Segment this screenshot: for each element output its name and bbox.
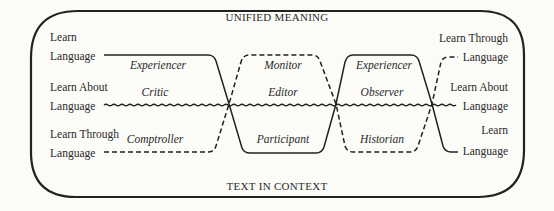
role-monitor: Monitor: [264, 59, 302, 71]
right-label-line2: Language: [463, 144, 508, 158]
left-label-line2: Language: [50, 49, 95, 63]
left-label-line2: Language: [50, 146, 119, 160]
right-label-line2: Language: [439, 50, 508, 64]
role-participant: Participant: [257, 133, 309, 145]
role-critic: Critic: [142, 86, 169, 98]
role-experiencer-1: Experiencer: [130, 59, 186, 71]
left-label-line1: Learn Through: [50, 127, 119, 141]
left-label-line1: Learn About: [50, 80, 108, 94]
right-label-learn-through-language: Learn Through Language: [439, 31, 508, 64]
left-label-line2: Language: [50, 99, 108, 113]
learn-about-language-line: [104, 104, 456, 106]
right-label-line1: Learn Through: [439, 31, 508, 45]
role-historian: Historian: [360, 133, 404, 145]
right-label-learn-about-language: Learn About Language: [450, 80, 508, 113]
role-comptroller: Comptroller: [127, 133, 183, 145]
role-experiencer-2: Experiencer: [356, 59, 412, 71]
role-editor: Editor: [268, 86, 297, 98]
left-label-learn-about-language: Learn About Language: [50, 80, 108, 113]
right-label-learn-language: Learn Language: [463, 123, 508, 158]
text-in-context-caption: TEXT IN CONTEXT: [227, 180, 328, 192]
right-label-line2: Language: [450, 99, 508, 113]
right-label-line1: Learn: [463, 123, 508, 137]
right-label-line1: Learn About: [450, 80, 508, 94]
left-label-learn-language: Learn Language: [50, 30, 95, 63]
left-label-line1: Learn: [50, 30, 95, 44]
left-label-learn-through-language: Learn Through Language: [50, 127, 119, 160]
role-observer: Observer: [361, 86, 404, 98]
unified-meaning-caption: UNIFIED MEANING: [225, 11, 328, 23]
